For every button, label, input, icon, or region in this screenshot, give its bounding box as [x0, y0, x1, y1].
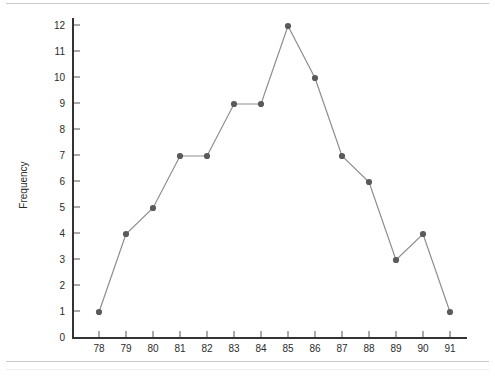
data-point — [204, 153, 210, 159]
y-tick-label-4: 4 — [59, 228, 65, 239]
y-axis-title-group: Frequency — [18, 161, 29, 208]
y-tick-label-3: 3 — [59, 254, 65, 265]
x-tick-label-82: 82 — [201, 343, 213, 354]
x-tick-label-87: 87 — [336, 343, 348, 354]
x-tick-label-81: 81 — [174, 343, 186, 354]
line-chart: Frequency 12 11 10 9 8 7 6 5 4 3 2 1 0 — [0, 0, 495, 378]
data-point — [420, 231, 426, 237]
y-tick-label-9: 9 — [59, 98, 65, 109]
data-point — [285, 23, 291, 29]
x-tick-label-78: 78 — [93, 343, 105, 354]
bottom-faint-rule — [6, 369, 489, 370]
x-tick-label-79: 79 — [120, 343, 132, 354]
y-tick-label-8: 8 — [59, 124, 65, 135]
y-tick-label-2: 2 — [59, 280, 65, 291]
y-tick-label-1: 1 — [59, 306, 65, 317]
x-tick-label-89: 89 — [390, 343, 402, 354]
x-axis-ticks — [99, 331, 450, 338]
x-tick-label-86: 86 — [309, 343, 321, 354]
y-tick-label-0: 0 — [59, 332, 65, 343]
data-point — [123, 231, 129, 237]
y-tick-label-12: 12 — [54, 20, 66, 31]
x-tick-label-91: 91 — [444, 343, 456, 354]
y-tick-label-7: 7 — [59, 150, 65, 161]
figure-container: Frequency 12 11 10 9 8 7 6 5 4 3 2 1 0 — [0, 0, 495, 378]
y-axis-ticks — [73, 25, 80, 311]
x-tick-label-85: 85 — [282, 343, 294, 354]
frequency-series-line — [99, 26, 450, 312]
data-point — [258, 101, 264, 107]
data-point — [393, 257, 399, 263]
x-axis-tick-labels: 78 79 80 81 82 83 84 85 86 87 88 89 90 9… — [93, 343, 456, 354]
x-tick-label-83: 83 — [228, 343, 240, 354]
data-point — [96, 309, 102, 315]
x-tick-label-88: 88 — [363, 343, 375, 354]
x-tick-label-84: 84 — [255, 343, 267, 354]
x-tick-label-80: 80 — [147, 343, 159, 354]
data-point — [447, 309, 453, 315]
data-point — [150, 205, 156, 211]
data-point — [177, 153, 183, 159]
y-axis-tick-labels: 12 11 10 9 8 7 6 5 4 3 2 1 0 — [54, 20, 66, 343]
y-tick-label-10: 10 — [54, 72, 66, 83]
data-point — [312, 75, 318, 81]
y-tick-label-5: 5 — [59, 202, 65, 213]
data-point — [339, 153, 345, 159]
y-tick-label-6: 6 — [59, 176, 65, 187]
data-point — [366, 179, 372, 185]
y-tick-label-11: 11 — [55, 46, 66, 57]
y-axis-title: Frequency — [18, 161, 29, 208]
bottom-divider-rule — [6, 361, 489, 362]
x-tick-label-90: 90 — [417, 343, 429, 354]
data-point — [231, 101, 237, 107]
